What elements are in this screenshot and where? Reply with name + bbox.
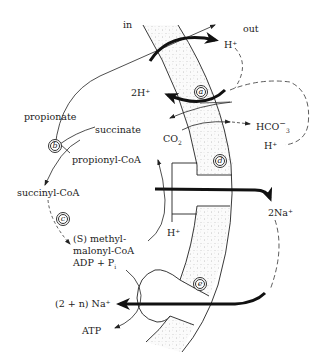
enzyme-c-marker: c [56, 212, 70, 226]
propionate-label: propionate [24, 112, 76, 122]
proton-out-label: H⁺ [224, 40, 237, 50]
diagram-graphics [0, 0, 325, 364]
methylmalonyl-line1: (S) methyl- [73, 234, 126, 244]
proton-in-d-label: H⁺ [167, 228, 180, 238]
decarboxylase-bracket [172, 163, 197, 222]
enzyme-e-marker: e [193, 277, 207, 291]
adp-pi-label: ADP + Pi [73, 258, 116, 270]
co2-label: CO2 [163, 134, 182, 146]
atp-label: ATP [82, 326, 101, 336]
membrane-transport-diagram: in out H⁺ 2H⁺ HCO−3 H⁺ CO2 propionate su… [0, 0, 325, 364]
succinate-to-propionyl-line [60, 127, 95, 153]
adp-pi-sub: i [114, 263, 116, 270]
succinyl-coa-label: succinyl-CoA [17, 188, 79, 198]
proton-out2-label: H⁺ [264, 141, 277, 151]
hco3-sub: 3 [286, 127, 290, 134]
enzyme-d-marker: d [213, 154, 227, 168]
methylmalonyl-line2: malonyl-CoA [73, 246, 134, 256]
enzyme-a-marker: a [194, 85, 208, 99]
hco3-text: HCO [256, 121, 279, 132]
co2-sub: 2 [178, 139, 182, 146]
membrane-d-block [197, 165, 232, 175]
inside-label: in [123, 20, 132, 30]
succinate-label: succinate [95, 125, 141, 135]
bicarbonate-label: HCO−3 [256, 120, 290, 134]
sodium-recycle-dashed [270, 220, 279, 290]
hco3-dashed-loop [230, 81, 309, 145]
propionyl-coa-label: propionyl-CoA [72, 155, 141, 165]
hco3-sup: − [279, 119, 286, 128]
atpase-head [137, 270, 180, 322]
sodium-in-label: (2 + n) Na⁺ [55, 299, 111, 309]
two-proton-in-label: 2H⁺ [131, 88, 150, 98]
enzyme-b-marker: b [48, 139, 62, 153]
adp-pi-text: ADP + P [73, 257, 114, 268]
outside-label: out [243, 24, 259, 34]
two-sodium-out-label: 2Na⁺ [268, 208, 293, 218]
proton-recycle-dashed [235, 48, 243, 88]
co2-text: CO [163, 133, 178, 144]
methylmalonyl-to-propionyl-arc [148, 160, 165, 241]
